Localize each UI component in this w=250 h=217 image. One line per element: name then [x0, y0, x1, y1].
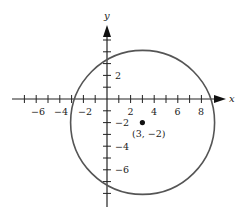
x-axis-label: x: [229, 93, 235, 104]
y-tick-label: −2: [115, 117, 129, 128]
x-tick-label: −2: [78, 106, 92, 117]
center-point: [140, 120, 145, 125]
x-tick-label: −6: [31, 106, 45, 117]
y-tick-label: −6: [115, 164, 129, 175]
y-tick-label: 2: [115, 70, 121, 81]
x-tick-label: 8: [198, 106, 204, 117]
y-axis-arrow-icon: [103, 25, 111, 37]
y-axis-label: y: [103, 10, 110, 21]
x-tick-label: 2: [128, 106, 134, 117]
x-tick-label: −4: [54, 106, 68, 117]
x-axis-arrow-icon: [214, 95, 226, 103]
center-point-label: (3, −2): [132, 128, 166, 139]
circle-graph: x y −6 −4 −2 2 4 6 8 2 −2 −4 −6 (3, −2): [0, 0, 250, 217]
x-tick-label: 4: [151, 106, 157, 117]
y-tick-label: −4: [115, 141, 129, 152]
x-tick-label: 6: [175, 106, 181, 117]
